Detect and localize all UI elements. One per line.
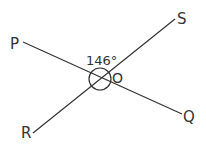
point-label-s: S (177, 10, 187, 28)
line-rs (33, 19, 175, 133)
point-label-q: Q (183, 108, 195, 126)
point-label-o: O (112, 70, 123, 86)
angle-label: 146° (86, 53, 117, 68)
angle-diagram: P S Q R O 146° (0, 0, 206, 146)
point-label-r: R (21, 124, 31, 142)
point-label-p: P (10, 35, 19, 53)
